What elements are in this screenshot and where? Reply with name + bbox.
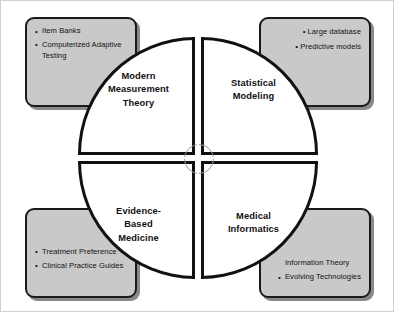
quadrant-modern-measurement-theory: ModernMeasurementTheory [78,37,195,155]
callout-item: Item Banks [35,26,127,37]
quadrant-label: MedicalInformatics [221,210,286,237]
quadrant-label: Evidence-BasedMedicine [109,205,168,245]
callout-item: Large database [295,26,361,38]
quadrant-medical-informatics: MedicalInformatics [201,161,318,279]
quadrant-circle: ModernMeasurementTheory StatisticalModel… [78,37,318,279]
quadrant-label: StatisticalModeling [224,77,283,104]
quadrant-label: ModernMeasurementTheory [101,70,176,110]
quadrant-evidence-based-medicine: Evidence-BasedMedicine [78,161,195,279]
horizontal-divider-gap [77,157,319,159]
quadrant-statistical-modeling: StatisticalModeling [201,37,318,155]
diagram-frame: Item Banks Computerized Adaptive Testing… [0,0,394,312]
